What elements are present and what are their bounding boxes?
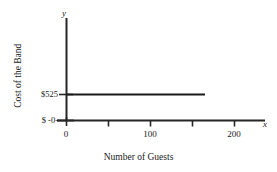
y-tick-label-525: $525	[18, 90, 58, 99]
x-axis-variable-label: x	[263, 120, 267, 129]
x-tick-label-100: 100	[130, 130, 170, 139]
chart-plot-area	[0, 0, 277, 172]
chart-figure: y x $525 $ -0- 0 100 200 Number of Guest…	[0, 0, 277, 172]
x-tick-label-0: 0	[46, 130, 86, 139]
y-axis-title: Cost of the Band	[14, 16, 24, 136]
x-tick-label-200: 200	[214, 130, 254, 139]
y-tick-label-0: $ -0-	[18, 116, 58, 125]
x-axis-title: Number of Guests	[0, 153, 277, 163]
y-axis-variable-label: y	[62, 9, 66, 18]
